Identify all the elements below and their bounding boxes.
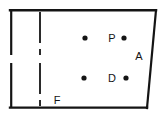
label-p: P [108,32,115,44]
label-f: F [54,94,61,106]
point-p [121,35,126,40]
point-unlabeled-lower [81,75,86,80]
point-unlabeled-upper [82,35,87,40]
label-a: A [135,50,143,62]
geometry-figure: P A D F [0,0,166,119]
diagram-canvas: P A D F [0,0,166,119]
label-d: D [108,72,116,84]
point-d [123,75,128,80]
